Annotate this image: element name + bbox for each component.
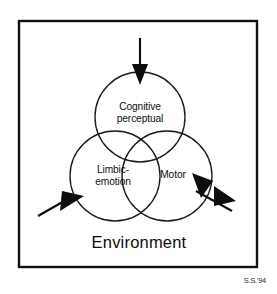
figure-container: Cognitive perceptual Limbic- emotion Mot…: [0, 0, 277, 294]
label-cognitive-line2: perceptual: [117, 113, 164, 124]
environment-frame: [19, 21, 257, 267]
label-environment: Environment: [92, 233, 187, 251]
label-cognitive-line1: Cognitive: [119, 101, 161, 112]
venn-diagram: Cognitive perceptual Limbic- emotion Mot…: [0, 0, 277, 294]
label-limbic-line1: Limbic-: [97, 164, 129, 175]
label-motor: Motor: [160, 169, 186, 180]
signature-mark: S.S.'94: [244, 276, 266, 285]
label-limbic-line2: emotion: [95, 176, 131, 187]
